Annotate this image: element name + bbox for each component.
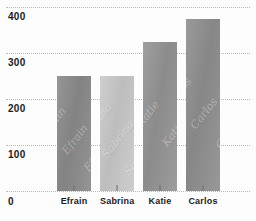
bar-watermark-katie: Katie Katie Katie Katie Katie Katie Kati… xyxy=(143,42,177,192)
watermark-text: Sabrina xyxy=(100,110,134,168)
watermark-text: Efrain xyxy=(57,93,78,151)
watermark-text: Efrain xyxy=(57,110,91,168)
watermark-text: Carlos xyxy=(206,104,220,162)
gridline-0 xyxy=(6,191,250,192)
bar-watermark-carlos: Carlos Carlos Carlos Carlos Carlos Carlo… xyxy=(186,19,220,192)
watermark-text: Katie xyxy=(143,65,149,123)
y-tick-label-100: 100 xyxy=(8,149,48,160)
x-label-katie: Katie xyxy=(143,196,177,206)
bar-efrain[interactable]: Efrain Efrain Efrain Efrain Efrain Efrai… xyxy=(57,76,91,191)
bar-slot-efrain: Efrain Efrain Efrain Efrain Efrain Efrai… xyxy=(57,7,91,191)
plot-area: 400 300 200 100 Efrain Efrain Efrain Efr… xyxy=(57,7,250,191)
x-axis-labels: Efrain Sabrina Katie Carlos xyxy=(57,196,250,206)
watermark-text: Katie xyxy=(143,85,174,143)
x-label-carlos: Carlos xyxy=(186,196,220,206)
x-tick-carlos xyxy=(203,185,204,191)
bar-chart: 400 300 200 100 Efrain Efrain Efrain Efr… xyxy=(0,0,256,221)
watermark-text: Katie xyxy=(175,124,177,182)
bar-watermark-efrain: Efrain Efrain Efrain Efrain Efrain Efrai… xyxy=(57,76,91,191)
watermark-text: Sabrina xyxy=(100,93,121,151)
bar-shading xyxy=(100,76,134,191)
x-tick-katie xyxy=(160,185,161,191)
y-tick-label-0: 0 xyxy=(8,196,14,207)
bar-shading xyxy=(143,42,177,192)
watermark-text: Efrain xyxy=(73,127,91,185)
x-tick-efrain xyxy=(74,185,75,191)
watermark-text: Carlos xyxy=(186,84,220,142)
watermark-text: Katie xyxy=(150,104,177,162)
bar-slot-carlos: Carlos Carlos Carlos Carlos Carlos Carlo… xyxy=(186,7,220,191)
bars-container: Efrain Efrain Efrain Efrain Efrain Efrai… xyxy=(57,7,250,191)
watermark-text: Sabrina xyxy=(116,127,134,185)
bar-slot-katie: Katie Katie Katie Katie Katie Katie Kati… xyxy=(143,7,177,191)
y-tick-label-300: 300 xyxy=(8,57,48,68)
x-label-sabrina: Sabrina xyxy=(100,196,134,206)
x-tick-sabrina xyxy=(117,185,118,191)
bar-katie[interactable]: Katie Katie Katie Katie Katie Katie Kati… xyxy=(143,42,177,192)
y-tick-label-400: 400 xyxy=(8,11,48,22)
bar-sabrina[interactable]: Sabrina Sabrina Sabrina Sabrina Sabrina … xyxy=(100,76,134,191)
y-tick-label-200: 200 xyxy=(8,103,48,114)
watermark-text: Carlos xyxy=(186,64,204,122)
bar-shading xyxy=(186,19,220,192)
bar-shading xyxy=(57,76,91,191)
bar-carlos[interactable]: Carlos Carlos Carlos Carlos Carlos Carlo… xyxy=(186,19,220,192)
bar-watermark-sabrina: Sabrina Sabrina Sabrina Sabrina Sabrina … xyxy=(100,76,134,191)
bar-slot-sabrina: Sabrina Sabrina Sabrina Sabrina Sabrina … xyxy=(100,7,134,191)
x-label-efrain: Efrain xyxy=(57,196,91,206)
